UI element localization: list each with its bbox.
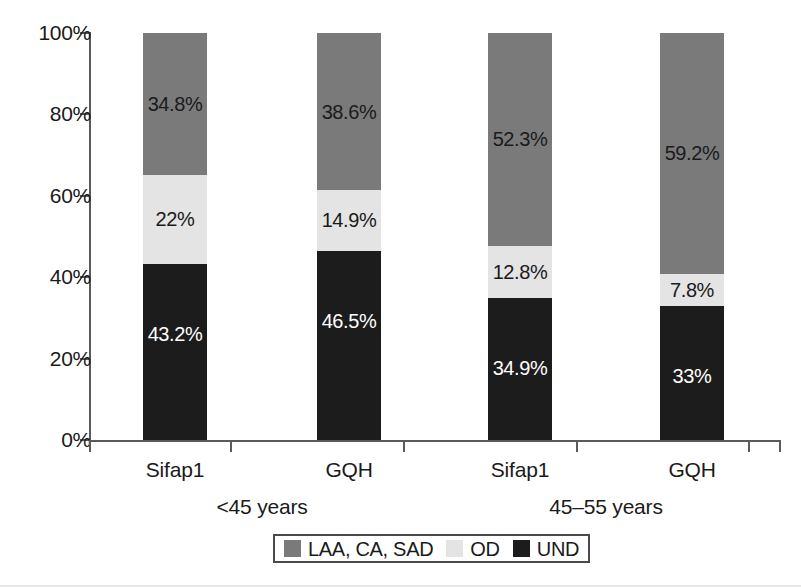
bar-segment-label: 14.9% [317, 210, 381, 230]
legend-swatch-icon [446, 540, 463, 557]
bar-1: 34.8%22%43.2% [143, 33, 207, 440]
stacked-bar-chart: 100%80%60%40%20%0% 34.8%22%43.2%38.6%14.… [0, 0, 801, 587]
y-axis-tick-label: 0% [17, 429, 91, 450]
bar-3: 52.3%12.8%34.9% [488, 33, 552, 440]
y-axis-tick-label-wrap: 80% [0, 103, 91, 125]
legend-swatch-icon [284, 540, 301, 557]
bar-4: 59.2%7.8%33% [660, 33, 724, 440]
y-axis-tick-label: 20% [17, 348, 91, 369]
bar-segment-label: 59.2% [660, 143, 724, 163]
bar-segment-label: 7.8% [660, 280, 724, 300]
bar-segment-label: 12.8% [488, 262, 552, 282]
legend-item: LAA, CA, SAD [284, 539, 433, 559]
bar-segment-label: 34.8% [143, 94, 207, 114]
legend-label: OD [470, 539, 499, 559]
x-axis-tick-1 [230, 440, 232, 452]
x-axis-tick-0 [89, 440, 91, 452]
legend-label: LAA, CA, SAD [308, 539, 433, 559]
x-axis-category-label: Sifap1 [450, 459, 590, 481]
y-axis-tick-label: 100% [17, 22, 91, 43]
y-axis-tick-label: 80% [17, 103, 91, 124]
y-axis-tick-label-wrap: 100% [0, 22, 91, 44]
y-axis-tick-label-wrap: 60% [0, 185, 91, 207]
x-axis-tick-2 [403, 440, 405, 452]
bar-segment-label: 43.2% [143, 324, 207, 344]
x-axis-line [89, 440, 779, 442]
legend-item: OD [446, 539, 499, 559]
x-axis-category-label: Sifap1 [105, 459, 245, 481]
y-axis-tick-label-wrap: 20% [0, 348, 91, 370]
bar-segment-label: 34.9% [488, 358, 552, 378]
chart-legend: LAA, CA, SADODUND [273, 534, 590, 563]
bar-segment [317, 251, 381, 440]
y-axis-tick-label-wrap: 40% [0, 266, 91, 288]
bar-2: 38.6%14.9%46.5% [317, 33, 381, 440]
x-axis-tick-3 [576, 440, 578, 452]
bar-segment-label: 46.5% [317, 311, 381, 331]
x-axis-tick-4 [748, 440, 750, 452]
y-axis-line [89, 33, 91, 441]
bar-segment [143, 264, 207, 440]
legend-label: UND [537, 539, 579, 559]
x-axis-group-label: 45–55 years [506, 496, 706, 518]
x-axis-category-label: GQH [279, 459, 419, 481]
y-axis-tick-label: 60% [17, 185, 91, 206]
bar-segment-label: 33% [660, 366, 724, 386]
bar-segment-label: 38.6% [317, 102, 381, 122]
x-axis-group-label: <45 years [162, 496, 362, 518]
x-axis-tick-5 [779, 440, 781, 452]
bar-segment-label: 52.3% [488, 129, 552, 149]
bar-segment-label: 22% [143, 209, 207, 229]
y-axis-tick-label: 40% [17, 266, 91, 287]
y-axis-tick-label-wrap: 0% [0, 429, 91, 451]
x-axis-category-label: GQH [622, 459, 762, 481]
legend-item: UND [513, 539, 579, 559]
legend-swatch-icon [513, 540, 530, 557]
